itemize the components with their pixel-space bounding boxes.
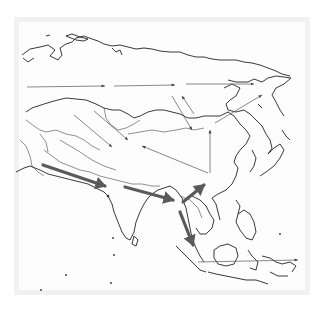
thick-route-arrows [43, 165, 204, 245]
arrow-sunda-to-pacific [198, 260, 298, 262]
japan-korea-outline [250, 130, 290, 176]
asia-map [0, 0, 324, 316]
siberia-arctic-coast [22, 34, 290, 76]
arrow-southern-route-indochina-china [183, 185, 204, 202]
arrow-northern-route-west [27, 86, 105, 87]
arrow-china-to-mongolia-2 [182, 96, 194, 114]
arrow-southern-route-malay [180, 212, 193, 245]
far-east-coast [224, 76, 291, 154]
arrow-southern-route-india-burma [125, 187, 173, 200]
arrow-central-asia-to-tibet-2 [74, 115, 112, 147]
arrow-south-china-to-tibet [142, 146, 208, 173]
ocean-islands [40, 233, 281, 291]
maritime-southeast-asia [176, 210, 296, 284]
arrow-central-asia-to-tibet-1 [94, 111, 128, 140]
arrow-northern-route-middle [114, 85, 175, 86]
mainland-asia-outline [16, 98, 250, 198]
